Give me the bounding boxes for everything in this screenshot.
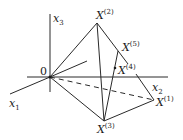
point-x4-label: X(4) [118, 64, 136, 76]
x2-axis-label: x2 [152, 82, 163, 96]
origin-dot [49, 76, 52, 79]
edge-x3-x1 [104, 100, 154, 121]
x1-axis-label: x1 [9, 98, 20, 112]
x1-axis [10, 77, 50, 94]
origin-label: 0 [40, 66, 47, 77]
diagram-canvas: x3 x2 x1 0 X(2) X(5) X(4) X(1) X(3) [0, 0, 183, 140]
edge-0-x3 [50, 77, 104, 121]
x3-axis-label: x3 [53, 13, 64, 27]
point-x2-label: X(2) [96, 9, 114, 21]
edge-x3-x5 [104, 51, 118, 121]
x4-dot [114, 67, 117, 70]
diagram-lines [0, 0, 183, 140]
origin-ray [50, 61, 87, 77]
point-x5-label: X(5) [122, 41, 140, 53]
point-x3-label: X(3) [97, 123, 115, 135]
edge-x2-x3 [97, 23, 104, 121]
edge-0-x2 [50, 23, 97, 77]
point-x1-label: X(1) [156, 96, 174, 108]
